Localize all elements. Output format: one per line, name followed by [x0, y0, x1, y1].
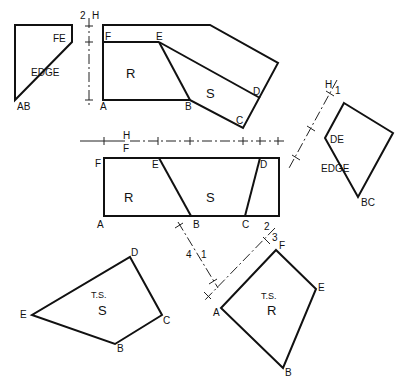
aux1-label-edge: EDGE	[321, 163, 350, 174]
ref-line-41: 4 1	[175, 222, 218, 288]
ref-label-2: 2	[80, 10, 86, 21]
true-shape-s: T.S. S D E C B	[20, 247, 170, 354]
top-label-f: F	[105, 31, 111, 42]
ref-line-hf: H F	[80, 130, 285, 154]
ref-label-h2: H	[123, 130, 130, 141]
side-view: FE EDGE AB	[15, 25, 72, 112]
label-ab: AB	[17, 101, 31, 112]
ts-r-label-e: E	[318, 282, 325, 293]
top-label-r: R	[126, 66, 135, 81]
front-label-r: R	[124, 190, 133, 205]
ref-label-3: 3	[272, 232, 278, 243]
front-label-f: F	[95, 158, 101, 169]
front-label-d: D	[260, 159, 267, 170]
front-view: F E D R S A B C	[95, 158, 279, 230]
front-label-e: E	[152, 159, 159, 170]
ts-s-label-c: C	[163, 315, 170, 326]
ts-s-outline	[32, 257, 162, 344]
ref-label-f: F	[123, 143, 129, 154]
front-label-s: S	[206, 190, 215, 205]
front-label-c: C	[242, 219, 249, 230]
top-label-e: E	[156, 31, 163, 42]
top-label-c: C	[236, 115, 243, 126]
top-view: F E R S D A B C	[100, 25, 278, 128]
ref-label-h3: H	[325, 79, 332, 90]
ref-label-1b: 1	[201, 249, 207, 260]
ts-s-name: S	[98, 303, 107, 318]
ref-label-4: 4	[186, 249, 192, 260]
ts-r-name: R	[267, 303, 276, 318]
ts-r-label-a: A	[213, 307, 220, 318]
ts-s-label-e: E	[20, 309, 27, 320]
ref-label-2b: 2	[264, 221, 270, 232]
label-fe: FE	[53, 33, 66, 44]
ref-line-2h: 2 H	[80, 10, 99, 108]
ref-label-h: H	[92, 10, 99, 21]
label-edge: EDGE	[31, 67, 60, 78]
ts-s-label: T.S.	[91, 290, 107, 300]
top-label-a: A	[100, 101, 107, 112]
aux1-outline	[325, 103, 393, 197]
ts-r-label-f: F	[279, 240, 285, 251]
true-shape-r: T.S. R F E A B	[213, 240, 325, 378]
top-label-d: D	[253, 86, 260, 97]
ref-label-1: 1	[335, 85, 341, 96]
top-label-s: S	[206, 86, 215, 101]
ts-r-label-b: B	[285, 367, 292, 378]
ts-s-label-d: D	[131, 247, 138, 258]
ts-s-label-b: B	[117, 343, 124, 354]
aux1-view: DE EDGE BC	[321, 103, 393, 208]
top-label-b: B	[185, 101, 192, 112]
ts-r-label: T.S.	[261, 291, 277, 301]
front-label-b: B	[193, 219, 200, 230]
aux1-label-bc: BC	[361, 197, 375, 208]
aux1-label-de: DE	[330, 134, 344, 145]
front-label-a: A	[97, 219, 104, 230]
descriptive-geometry-diagram: FE EDGE AB 2 H F E R S D A B C H F	[0, 0, 405, 388]
